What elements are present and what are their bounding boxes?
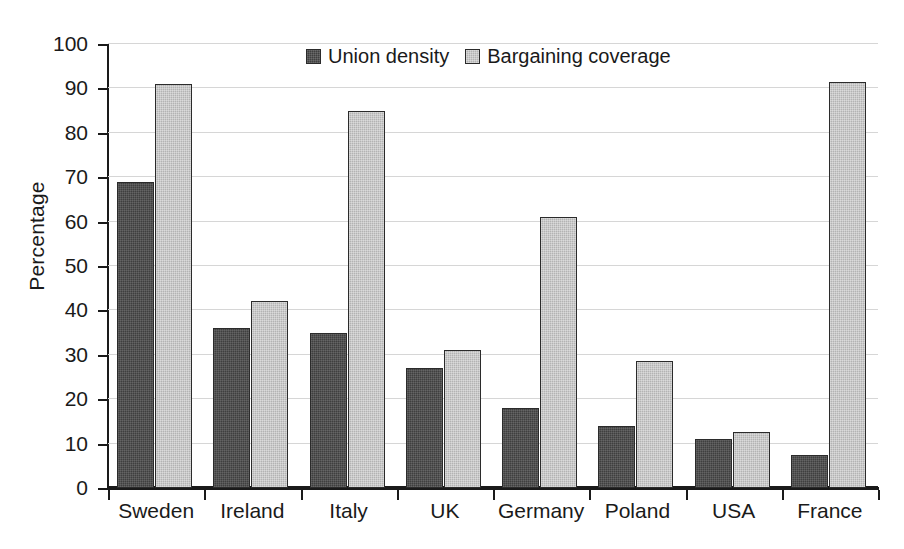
bar-chart: Percentage 0102030405060708090100 Sweden… bbox=[0, 0, 904, 549]
bar-ireland-union-density bbox=[213, 328, 250, 488]
y-tick-mark-40 bbox=[98, 310, 107, 312]
y-tick-label-30: 30 bbox=[30, 344, 88, 365]
y-tick-label-100: 100 bbox=[30, 33, 88, 54]
x-axis-label-france: France bbox=[760, 498, 900, 524]
legend-entry-union-density: Union density bbox=[306, 45, 449, 68]
y-tick-mark-70 bbox=[98, 177, 107, 179]
legend-swatch-icon-bargaining-coverage bbox=[465, 49, 480, 64]
y-tick-mark-0 bbox=[98, 488, 107, 490]
bar-usa-union-density bbox=[695, 439, 732, 488]
bar-group-ireland bbox=[204, 44, 300, 488]
y-tick-label-90: 90 bbox=[30, 77, 88, 98]
y-tick-mark-50 bbox=[98, 266, 107, 268]
bar-germany-bargaining-coverage bbox=[540, 217, 577, 488]
bar-group-usa bbox=[686, 44, 782, 488]
y-tick-label-40: 40 bbox=[30, 299, 88, 320]
y-tick-mark-90 bbox=[98, 88, 107, 90]
bar-usa-bargaining-coverage bbox=[733, 432, 770, 488]
y-tick-mark-100 bbox=[98, 44, 107, 46]
y-tick-label-0: 0 bbox=[30, 477, 88, 498]
legend-swatch-icon-union-density bbox=[306, 49, 321, 64]
legend-label-union-density: Union density bbox=[328, 45, 449, 68]
bar-france-union-density bbox=[791, 455, 828, 488]
bar-sweden-bargaining-coverage bbox=[155, 84, 192, 488]
bar-group-france bbox=[782, 44, 878, 488]
y-tick-label-10: 10 bbox=[30, 433, 88, 454]
y-tick-mark-20 bbox=[98, 399, 107, 401]
y-tick-label-80: 80 bbox=[30, 122, 88, 143]
bar-italy-union-density bbox=[310, 333, 347, 488]
y-tick-mark-30 bbox=[98, 355, 107, 357]
bar-group-sweden bbox=[108, 44, 204, 488]
bar-group-poland bbox=[589, 44, 685, 488]
bar-germany-union-density bbox=[502, 408, 539, 488]
y-tick-label-20: 20 bbox=[30, 388, 88, 409]
legend-label-bargaining-coverage: Bargaining coverage bbox=[487, 45, 670, 68]
bar-ireland-bargaining-coverage bbox=[251, 301, 288, 488]
legend-entry-bargaining-coverage: Bargaining coverage bbox=[465, 45, 670, 68]
legend: Union density Bargaining coverage bbox=[306, 45, 671, 68]
bar-poland-bargaining-coverage bbox=[636, 361, 673, 488]
bar-poland-union-density bbox=[598, 426, 635, 488]
bar-italy-bargaining-coverage bbox=[348, 111, 385, 488]
bar-sweden-union-density bbox=[117, 182, 154, 488]
bar-uk-bargaining-coverage bbox=[444, 350, 481, 488]
y-tick-label-60: 60 bbox=[30, 211, 88, 232]
bar-uk-union-density bbox=[406, 368, 443, 488]
bar-group-germany bbox=[493, 44, 589, 488]
y-tick-label-70: 70 bbox=[30, 166, 88, 187]
y-tick-mark-10 bbox=[98, 444, 107, 446]
bar-france-bargaining-coverage bbox=[829, 82, 866, 488]
y-tick-mark-80 bbox=[98, 133, 107, 135]
y-tick-mark-60 bbox=[98, 222, 107, 224]
bar-group-italy bbox=[301, 44, 397, 488]
y-tick-label-50: 50 bbox=[30, 255, 88, 276]
plot-area bbox=[108, 44, 878, 488]
bar-group-uk bbox=[397, 44, 493, 488]
